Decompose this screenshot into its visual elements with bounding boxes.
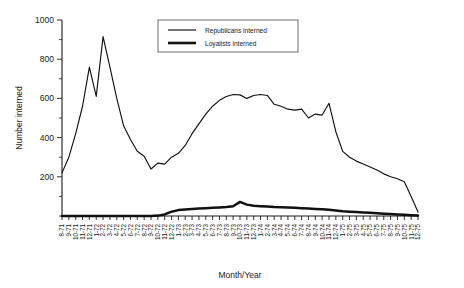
y-tick-label-200: 200 [40, 172, 54, 182]
legend-label-loyalists: Loyalists interned [205, 40, 257, 48]
internment-line-chart: 2004006008001000 Number interned 8-719-7… [0, 0, 464, 288]
y-axis-title: Number interned [14, 86, 24, 150]
y-tick-label-600: 600 [40, 93, 54, 103]
x-axis-title: Month/Year [218, 270, 261, 280]
y-tick-label-400: 400 [40, 133, 54, 143]
x-axis: 8-719-7110-7111-7112-711-722-723-724-725… [58, 216, 421, 280]
y-axis: 2004006008001000 Number interned [14, 15, 62, 216]
legend-box [158, 20, 298, 52]
y-tick-label-1000: 1000 [35, 15, 54, 25]
series-line-loyalists-interned [62, 202, 418, 216]
data-series-group [62, 37, 418, 216]
series-line-republicans-interned [62, 37, 418, 212]
x-tick-label-12-75: 12-75 [414, 224, 421, 241]
y-tick-label-800: 800 [40, 54, 54, 64]
legend-label-republicans: Republicans interned [205, 27, 267, 35]
chart-figure: 2004006008001000 Number interned 8-719-7… [0, 0, 464, 288]
chart-legend: Republicans interned Loyalists interned [158, 20, 298, 52]
